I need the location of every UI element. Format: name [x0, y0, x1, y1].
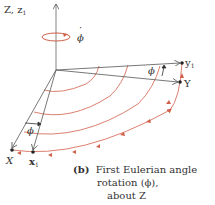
caption-line2: rotation (ϕ), [97, 177, 158, 188]
y1-label: y1 [184, 57, 194, 69]
z-axis-label: Z, z1 [4, 4, 26, 16]
phi-dot-label: ϕ [77, 32, 84, 43]
Y-label: Y [183, 78, 191, 89]
X-label: X [5, 155, 14, 166]
phi-label-x: ϕ [27, 125, 34, 136]
rotation-arcs [12, 63, 182, 152]
rotated-axes [12, 63, 180, 150]
caption-tag: (b) [73, 164, 89, 175]
caption: (b) First Eulerian angle rotation (ϕ), a… [73, 164, 197, 201]
caption-line3: about Z [107, 190, 146, 201]
arc-arrowheads [17, 73, 184, 157]
x1-label: x1 [29, 156, 39, 168]
euler-rotation-diagram: Z, z1 ϕ · [0, 0, 215, 205]
svg-text:(b) First Eulerian angle: (b) First Eulerian angle [73, 164, 197, 175]
caption-line1: First Eulerian angle [96, 164, 198, 175]
phi-dot-mark: · [79, 22, 82, 33]
phi-label-y: ϕ [148, 65, 155, 76]
